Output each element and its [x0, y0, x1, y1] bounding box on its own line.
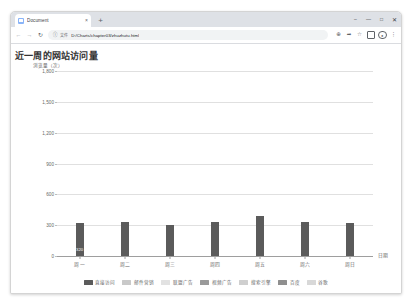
share-icon[interactable]: ➦ [346, 32, 353, 39]
x-tick-label: 周四 [210, 260, 220, 267]
x-tick-label: 周三 [165, 260, 175, 267]
zoom-icon[interactable]: ⊕ [335, 32, 342, 39]
bar-group: 周五 [238, 71, 283, 256]
legend-item[interactable]: 联盟广告 [161, 279, 193, 285]
desktop-background: Document × + – — □ ✕ ← → ↻ ⓘ 文件 D:/Chart… [0, 0, 410, 303]
tab-title: Document [27, 18, 82, 23]
x-tick-mark [124, 256, 125, 259]
y-tick-mark [55, 256, 58, 257]
x-tick-label: 周五 [255, 260, 265, 267]
x-tick-label: 周日 [345, 260, 355, 267]
y-tick-label: 900 [46, 161, 54, 166]
legend-swatch [200, 280, 209, 285]
restore-button[interactable]: — [362, 12, 375, 27]
bar[interactable]: 320 [76, 223, 84, 256]
maximize-button[interactable]: □ [375, 12, 388, 27]
legend-item[interactable]: 谷歌 [307, 279, 329, 285]
y-axis-label: 浏览量（次） [33, 62, 64, 68]
browser-tab[interactable]: Document × [15, 14, 91, 27]
close-window-button[interactable]: ✕ [388, 12, 401, 27]
bar-group: 周六 [283, 71, 328, 256]
bar[interactable] [301, 222, 309, 256]
bar[interactable] [346, 223, 354, 256]
toolbar-actions: ⊕ ➦ ☆ ● ⋮ [332, 31, 397, 40]
legend-swatch [122, 280, 131, 285]
info-icon[interactable]: ⓘ [52, 33, 57, 38]
legend-label: 联盟广告 [173, 279, 193, 285]
legend-label: 邮件营销 [134, 279, 154, 285]
bar-group: 周二 [102, 71, 147, 256]
legend-item[interactable]: 搜索引擎 [239, 279, 271, 285]
bar-series: 320周一周二周三周四周五周六周日 [57, 71, 373, 256]
legend-swatch [239, 280, 248, 285]
extensions-icon[interactable] [367, 31, 375, 39]
y-tick-label: 600 [46, 192, 54, 197]
close-tab-icon[interactable]: × [85, 18, 88, 23]
bar-group: 周四 [192, 71, 237, 256]
legend-label: 搜索引擎 [251, 279, 271, 285]
browser-window: Document × + – — □ ✕ ← → ↻ ⓘ 文件 D:/Chart… [10, 11, 402, 294]
legend-label: 谷歌 [318, 279, 328, 285]
chart-plot-area: 03006009001,2001,5001,800 320周一周二周三周四周五周… [57, 71, 373, 256]
x-tick-label: 周二 [120, 260, 130, 267]
bar[interactable] [121, 222, 129, 256]
legend-item[interactable]: 视频广告 [200, 279, 232, 285]
x-tick-label: 周一 [74, 260, 84, 267]
legend-item[interactable]: 百度 [278, 279, 300, 285]
bar[interactable] [256, 216, 264, 256]
legend-swatch [307, 280, 316, 285]
y-tick-label: 1,800 [42, 69, 54, 74]
forward-icon[interactable]: → [26, 32, 33, 39]
chart-legend: 直接访问邮件营销联盟广告视频广告搜索引擎百度谷歌 [11, 279, 401, 285]
window-controls: – — □ ✕ [349, 12, 401, 27]
bar-group: 周三 [147, 71, 192, 256]
x-tick-mark [350, 256, 351, 259]
x-tick-mark [260, 256, 261, 259]
back-icon[interactable]: ← [15, 32, 22, 39]
page-content: 近一周的网站访问量 浏览量（次） 03006009001,2001,5001,8… [11, 44, 401, 293]
url-text: D:/Charts/chapter03/zhuzhutu.html [71, 33, 139, 38]
x-axis-label: 日期 [378, 251, 388, 258]
bar-group: 320周一 [57, 71, 102, 256]
legend-label: 视频广告 [212, 279, 232, 285]
y-tick-label: 0 [51, 254, 54, 259]
bar[interactable] [211, 222, 219, 256]
x-tick-mark [214, 256, 215, 259]
y-tick-label: 1,500 [42, 99, 54, 104]
new-tab-button[interactable]: + [96, 16, 105, 25]
tab-strip: Document × + – — □ ✕ [11, 12, 401, 27]
menu-icon[interactable]: ⋮ [390, 32, 397, 39]
browser-toolbar: ← → ↻ ⓘ 文件 D:/Charts/chapter03/zhuzhutu.… [11, 27, 401, 44]
x-tick-label: 周六 [300, 260, 310, 267]
legend-item[interactable]: 邮件营销 [122, 279, 154, 285]
avatar[interactable]: ● [378, 31, 387, 40]
minimize-button[interactable]: – [349, 12, 362, 27]
legend-label: 百度 [290, 279, 300, 285]
legend-swatch [161, 280, 170, 285]
reload-icon[interactable]: ↻ [37, 32, 44, 39]
chart-title: 近一周的网站访问量 [15, 49, 98, 62]
legend-item[interactable]: 直接访问 [84, 279, 116, 285]
bar[interactable] [166, 225, 174, 256]
bar-group: 周日 [328, 71, 373, 256]
x-tick-mark [79, 256, 80, 259]
address-bar[interactable]: ⓘ 文件 D:/Charts/chapter03/zhuzhutu.html [48, 30, 328, 40]
legend-label: 直接访问 [95, 279, 115, 285]
y-tick-label: 1,200 [42, 130, 54, 135]
bar-value-label: 320 [76, 247, 83, 252]
legend-swatch [278, 280, 287, 285]
y-tick-label: 300 [46, 223, 54, 228]
x-tick-mark [305, 256, 306, 259]
page-icon [18, 18, 24, 24]
legend-swatch [84, 280, 93, 285]
bookmark-star-icon[interactable]: ☆ [356, 32, 363, 39]
file-chip: 文件 [60, 32, 68, 38]
x-tick-mark [169, 256, 170, 259]
